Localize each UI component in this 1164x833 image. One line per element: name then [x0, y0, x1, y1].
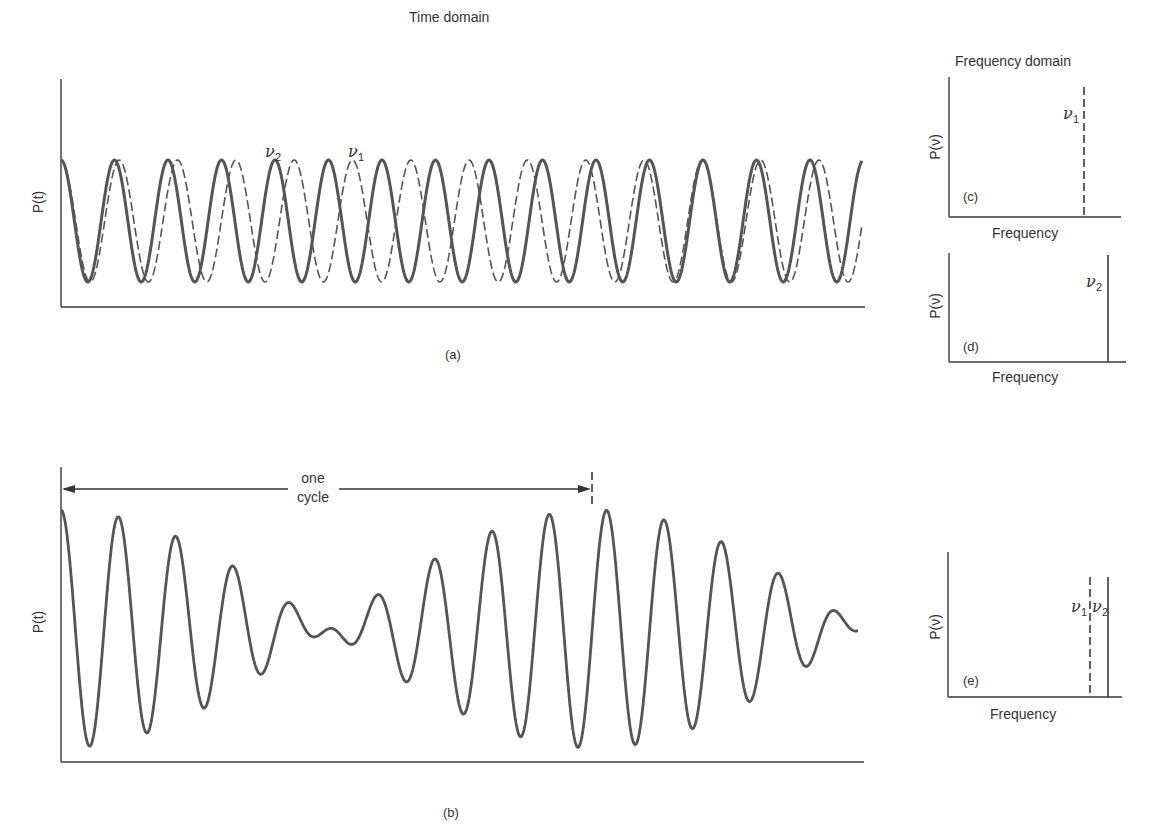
panel-c-caption: (c)	[963, 189, 978, 204]
panel-d-y-label: P(ν)	[927, 293, 943, 319]
panel-e-nu2-label: ν 2	[1092, 597, 1108, 618]
cycle-label-cycle: cycle	[297, 489, 329, 505]
panel-c-nu1-label: ν 1	[1063, 104, 1079, 125]
panel-a-caption: (a)	[445, 347, 461, 362]
panel-d-x-label: Frequency	[992, 369, 1058, 385]
panel-e-y-label: P(ν)	[927, 614, 943, 640]
svg-text:ν: ν	[265, 142, 275, 161]
frequency-domain-title: Frequency domain	[955, 53, 1071, 69]
svg-text:ν: ν	[1071, 597, 1081, 616]
panel-d: P(ν) ν 2 (d) Frequency	[927, 253, 1126, 385]
svg-text:ν: ν	[1086, 272, 1096, 291]
svg-text:2: 2	[1096, 281, 1102, 293]
arrowhead-right-icon	[578, 485, 591, 493]
cycle-label-one: one	[301, 470, 325, 486]
svg-text:1: 1	[358, 151, 364, 163]
svg-text:2: 2	[1102, 606, 1108, 618]
svg-text:1: 1	[1081, 606, 1087, 618]
nu1-label: ν 1	[348, 142, 364, 163]
panel-b-y-label: P(t)	[30, 611, 46, 634]
panel-b: P(t) one cycle (b)	[30, 467, 864, 820]
panel-a-y-label: P(t)	[30, 191, 46, 214]
panel-e-nu1-label: ν 1	[1071, 597, 1087, 618]
svg-text:ν: ν	[1063, 104, 1073, 123]
panel-e-caption: (e)	[963, 673, 979, 688]
arrowhead-left-icon	[62, 485, 75, 493]
panel-e-x-label: Frequency	[990, 706, 1056, 722]
svg-text:ν: ν	[348, 142, 358, 161]
panel-d-nu2-label: ν 2	[1086, 272, 1102, 293]
svg-text:ν: ν	[1092, 597, 1102, 616]
one-cycle-annotation: one cycle	[62, 470, 592, 508]
panel-b-caption: (b)	[443, 805, 459, 820]
panel-c-x-label: Frequency	[992, 225, 1058, 241]
figure: Time domain Frequency domain P(t) ν 2 ν …	[0, 0, 1164, 833]
panel-d-caption: (d)	[963, 339, 979, 354]
panel-c: P(ν) ν 1 (c) Frequency	[927, 77, 1121, 241]
nu2-label: ν 2	[265, 142, 281, 163]
panel-c-y-label: P(ν)	[927, 134, 943, 160]
beat-wave	[61, 510, 858, 747]
time-domain-title: Time domain	[409, 9, 489, 25]
panel-a: P(t) ν 2 ν 1 (a)	[30, 79, 865, 362]
panel-e: P(ν) ν 1 ν 2 (e) Frequency	[927, 552, 1122, 722]
svg-text:1: 1	[1073, 113, 1079, 125]
svg-text:2: 2	[275, 151, 281, 163]
